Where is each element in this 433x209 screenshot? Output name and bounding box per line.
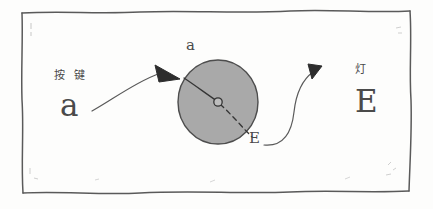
arrowhead-into-disc <box>155 65 180 82</box>
disc-entry-glyph-a: a <box>186 38 195 53</box>
sketch-canvas: 按 键 a 灯 E a E <box>0 0 433 209</box>
rotating-disc <box>178 60 258 144</box>
disc-exit-glyph-e: E <box>249 131 260 146</box>
lamp-glyph-e: E <box>355 86 378 117</box>
arrowhead-into-lamp <box>308 64 322 79</box>
key-label-cjk: 按 键 <box>54 70 89 81</box>
arrow-key-to-disc <box>92 65 180 111</box>
arrow-disc-to-lamp <box>264 64 322 145</box>
key-glyph-a: a <box>60 90 78 121</box>
lamp-label-cjk: 灯 <box>355 64 369 75</box>
disc-hub <box>214 98 222 106</box>
